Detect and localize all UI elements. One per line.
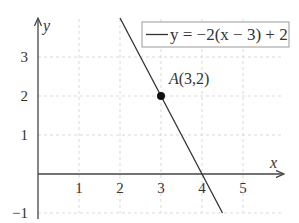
point-marker [157,92,165,100]
legend: y = −2(x − 3) + 2 [142,22,289,47]
chart-canvas: x y 12345−1123 A(3,2) y = −2(x − 3) + 2 [0,0,299,223]
x-tick-label: 5 [239,180,247,196]
x-tick-label: 1 [75,180,83,196]
point-label: A(3,2) [168,70,209,88]
legend-label: y = −2(x − 3) + 2 [170,25,288,44]
x-tick-label: 2 [116,180,124,196]
y-axis-label: y [41,17,51,35]
x-axis-label: x [269,154,277,171]
y-tick-label: 2 [21,88,29,104]
y-tick-label: 1 [21,127,29,143]
y-tick-label: −1 [12,205,28,221]
y-tick-label: 3 [21,49,29,65]
x-tick-label: 3 [157,180,165,196]
x-tick-label: 4 [198,180,206,196]
